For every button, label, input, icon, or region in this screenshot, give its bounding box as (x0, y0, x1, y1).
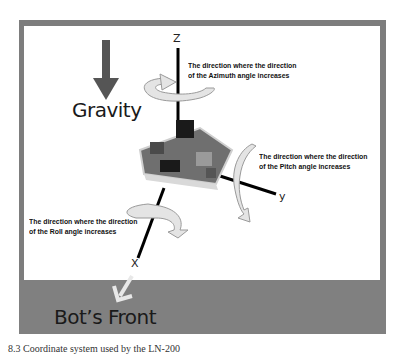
bot-front-arrow-icon (114, 276, 132, 300)
roll-note: The direction where the direction of the… (29, 217, 138, 237)
x-axis-line (138, 188, 164, 258)
gravity-arrow-icon (93, 40, 119, 100)
azimuth-note: The direction where the direction of the… (188, 61, 297, 81)
pitch-note: The direction where the direction of the… (259, 152, 368, 172)
gravity-label: Gravity (72, 98, 142, 122)
y-axis-line (220, 176, 276, 194)
y-axis-label: y (279, 190, 286, 203)
bot-front-label: Bot’s Front (54, 305, 156, 329)
sensor-board-icon (140, 120, 232, 190)
z-axis-label: Z (173, 32, 181, 45)
figure-caption: 8.3 Coordinate system used by the LN-200 (8, 343, 180, 354)
x-axis-label: X (131, 257, 139, 270)
